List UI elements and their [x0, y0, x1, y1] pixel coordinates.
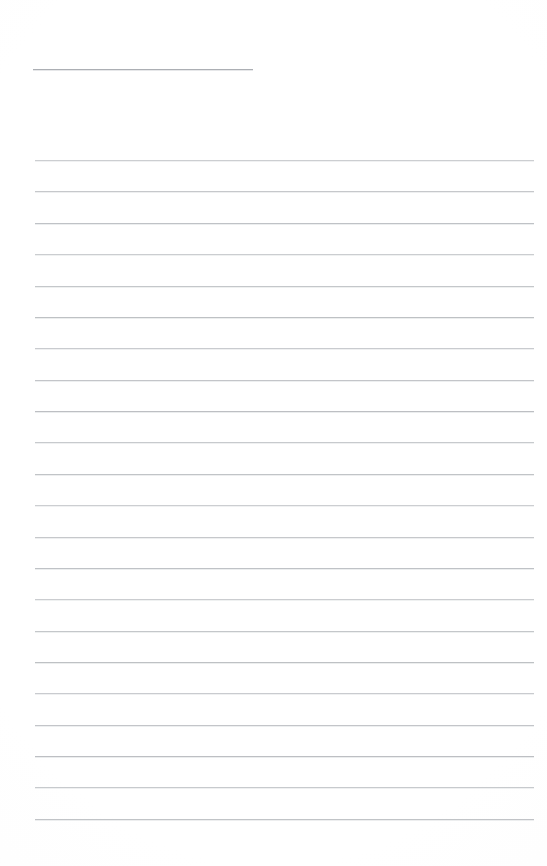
- ruled-line: [35, 568, 534, 569]
- lined-paper-page: [0, 0, 547, 866]
- ruled-line: [35, 160, 534, 161]
- title-rule: [33, 69, 253, 70]
- ruled-line: [35, 380, 534, 381]
- ruled-line: [35, 348, 534, 349]
- ruled-line: [35, 505, 534, 506]
- ruled-line: [35, 787, 534, 788]
- ruled-line: [35, 599, 534, 600]
- ruled-line: [35, 317, 534, 318]
- ruled-line: [35, 254, 534, 255]
- ruled-line: [35, 819, 534, 820]
- ruled-line: [35, 537, 534, 538]
- ruled-line: [35, 756, 534, 757]
- ruled-line: [35, 631, 534, 632]
- ruled-line: [35, 693, 534, 694]
- ruled-line: [35, 411, 534, 412]
- ruled-line: [35, 223, 534, 224]
- ruled-line: [35, 286, 534, 287]
- ruled-line: [35, 474, 534, 475]
- ruled-line: [35, 662, 534, 663]
- ruled-line: [35, 191, 534, 192]
- ruled-lines-layer: [0, 0, 547, 866]
- ruled-line: [35, 442, 534, 443]
- ruled-line: [35, 725, 534, 726]
